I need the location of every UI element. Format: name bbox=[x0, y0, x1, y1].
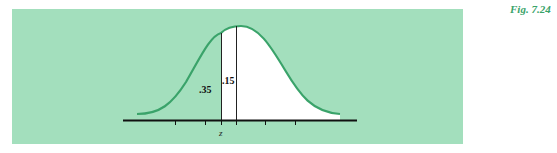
middle-area-label: .15 bbox=[222, 75, 235, 86]
z-tick-label: z bbox=[218, 128, 223, 138]
left-area-label: .35 bbox=[199, 84, 212, 95]
shaded-region bbox=[221, 26, 340, 120]
normal-curve-chart: .35 .15 z bbox=[0, 0, 557, 153]
